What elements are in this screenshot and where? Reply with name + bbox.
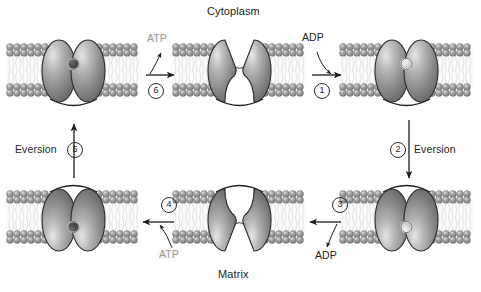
step-badge-2: 2 [390, 142, 406, 158]
arrow-step-6 [146, 53, 174, 75]
step-badge-3: 3 [332, 197, 348, 213]
step-badge-5: 5 [67, 142, 83, 158]
adp-label-top: ADP [302, 31, 324, 43]
arrow-step-1 [312, 52, 341, 75]
step-badge-6: 6 [148, 83, 164, 99]
adp-label-bottom: ADP [315, 249, 337, 261]
step-badge-1: 1 [314, 83, 330, 99]
eversion-label-right: Eversion [414, 143, 456, 155]
atp-label-top: ATP [147, 32, 167, 44]
step-badge-4: 4 [161, 197, 177, 213]
arrow-step-4 [143, 222, 174, 248]
eversion-label-left: Eversion [15, 143, 57, 155]
atp-label-bottom: ATP [159, 248, 179, 260]
arrow-step-3 [310, 222, 341, 247]
diagram-canvas: Cytoplasm Matrix [0, 0, 481, 292]
